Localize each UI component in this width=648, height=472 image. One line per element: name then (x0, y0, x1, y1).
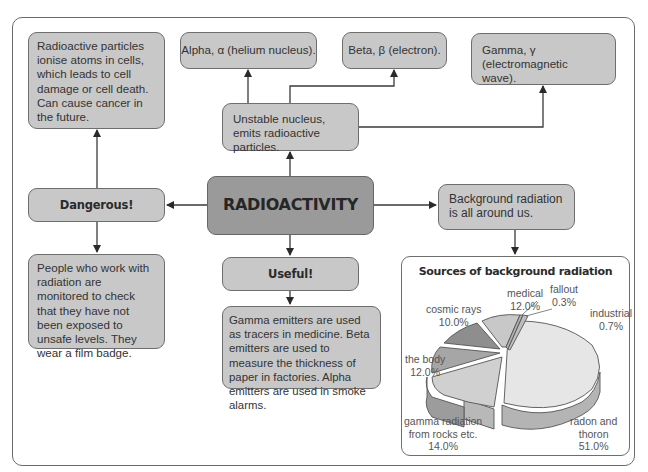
label-cosmic-rays: cosmic rays10.0% (426, 303, 481, 328)
central-title: RADIOACTIVITY (223, 198, 358, 212)
uses-text: Gamma emitters are used as tracers in me… (229, 314, 370, 411)
label-medical: medical12.0% (507, 287, 543, 312)
useful-label: Useful! (268, 267, 313, 281)
radioactivity-central-box: RADIOACTIVITY (207, 176, 374, 235)
unstable-nucleus-text: Unstable nucleus, emits radioactive part… (233, 112, 325, 153)
monitoring-box: People who work with radiation are monit… (28, 254, 165, 349)
alpha-box: Alpha, α (helium nucleus). (180, 32, 317, 69)
background-radiation-text: Background radiation is all around us. (449, 192, 562, 220)
alpha-text: Alpha, α (helium nucleus). (181, 43, 315, 57)
label-industrial: industrial0.7% (590, 307, 632, 332)
label-the-body: the body12.0% (405, 353, 445, 378)
monitoring-text: People who work with radiation are monit… (37, 261, 149, 359)
beta-text: Beta, β (electron). (348, 43, 440, 57)
background-radiation-chart: Sources of background radiation (401, 256, 630, 456)
gamma-box: Gamma, γ (electromagnetic wave). (471, 33, 616, 85)
danger-effect-text: Radioactive particles ionise atoms in ce… (37, 39, 149, 123)
label-gamma-rocks: gamma radiationfrom rocks etc.14.0% (404, 415, 482, 453)
beta-box: Beta, β (electron). (342, 32, 447, 69)
background-radiation-box: Background radiation is all around us. (438, 184, 575, 230)
dangerous-label: Dangerous! (60, 198, 133, 212)
label-radon-thoron: radon andthoron51.0% (570, 415, 617, 453)
unstable-nucleus-box: Unstable nucleus, emits radioactive part… (222, 103, 359, 151)
gamma-text: Gamma, γ (electromagnetic wave). (482, 43, 568, 84)
label-fallout: fallout0.3% (550, 283, 578, 308)
useful-box: Useful! (222, 257, 359, 291)
uses-box: Gamma emitters are used as tracers in me… (222, 306, 381, 389)
dangerous-box: Dangerous! (28, 188, 165, 222)
danger-effect-box: Radioactive particles ionise atoms in ce… (28, 32, 165, 129)
